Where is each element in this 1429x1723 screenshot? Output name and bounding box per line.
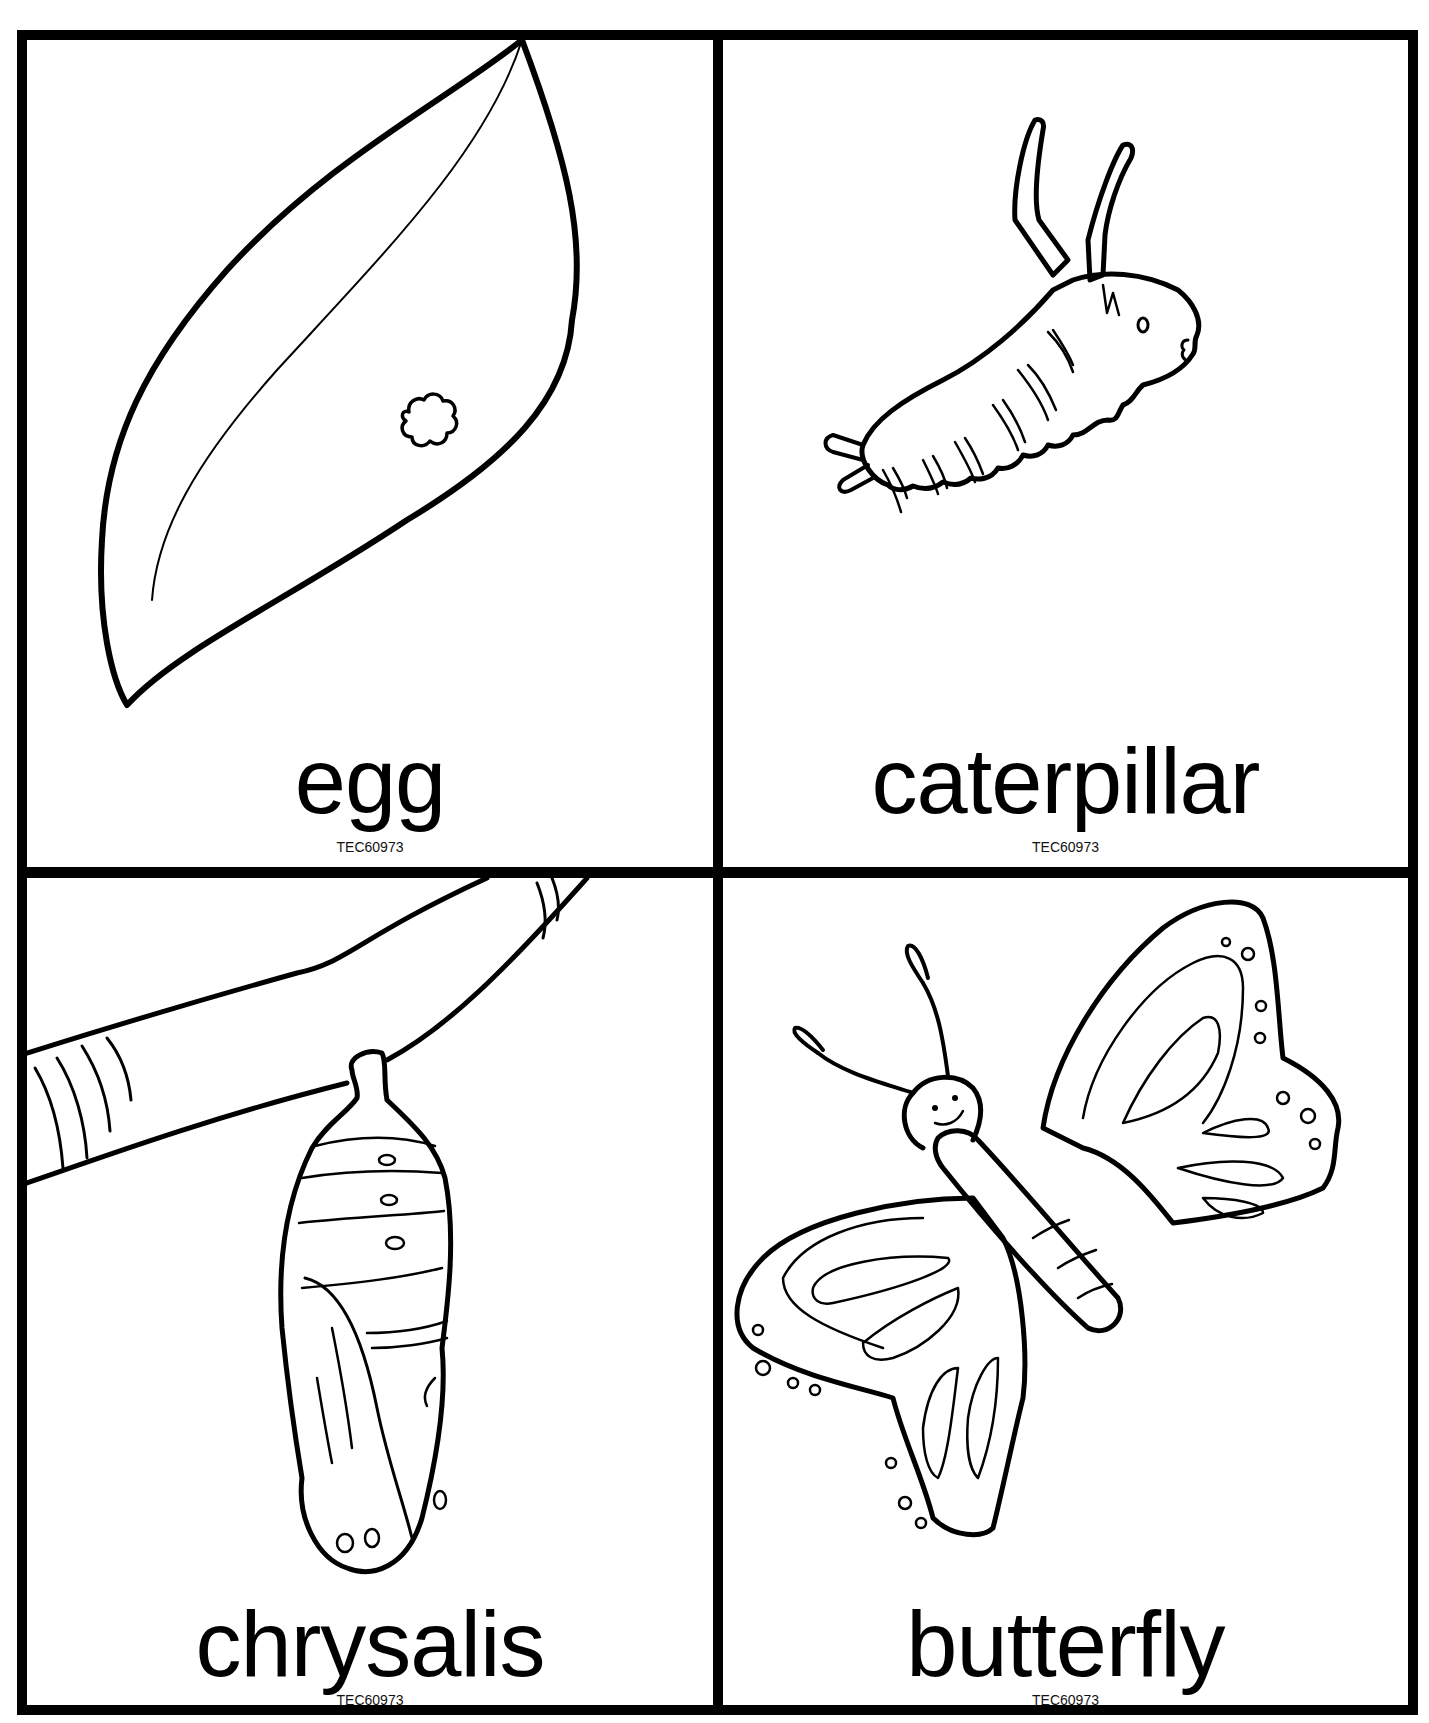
- card-code-egg: TEC60973: [27, 840, 713, 854]
- chrysalis-icon: [27, 878, 713, 1705]
- butterfly-icon: [723, 878, 1408, 1705]
- card-caterpillar: caterpillar TEC60973: [723, 40, 1408, 867]
- card-egg: egg TEC60973: [27, 40, 713, 867]
- horizontal-divider: [17, 867, 1418, 878]
- card-chrysalis: chrysalis TEC60973: [27, 878, 713, 1705]
- card-butterfly: butterfly TEC60973: [723, 878, 1408, 1705]
- card-code-butterfly: TEC60973: [723, 1693, 1408, 1707]
- card-code-chrysalis: TEC60973: [27, 1693, 713, 1707]
- card-label-chrysalis: chrysalis: [27, 1598, 713, 1690]
- card-label-egg: egg: [27, 735, 713, 827]
- card-label-butterfly: butterfly: [723, 1598, 1408, 1690]
- card-code-caterpillar: TEC60973: [723, 840, 1408, 854]
- card-label-caterpillar: caterpillar: [723, 735, 1408, 827]
